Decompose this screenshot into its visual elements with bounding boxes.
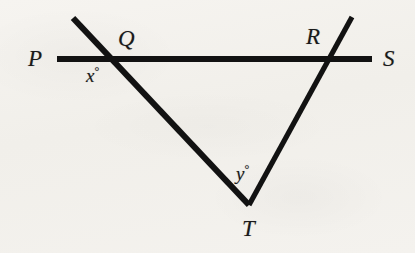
segment-rt xyxy=(73,18,249,205)
line-ps xyxy=(249,17,352,205)
geometry-figure: P Q R S T x° y° xyxy=(0,0,415,253)
diagram-strokes xyxy=(57,17,372,205)
angle-y-degree-symbol: ° xyxy=(244,162,249,176)
label-angle-y: y° xyxy=(236,163,249,183)
geometry-canvas xyxy=(0,0,415,253)
label-point-s: S xyxy=(383,47,395,70)
label-point-q: Q xyxy=(118,27,135,50)
label-point-p: P xyxy=(28,47,42,70)
angle-x-degree-symbol: ° xyxy=(94,64,99,78)
label-angle-x: x° xyxy=(86,65,99,85)
label-point-t: T xyxy=(242,217,255,240)
label-point-r: R xyxy=(306,25,320,48)
